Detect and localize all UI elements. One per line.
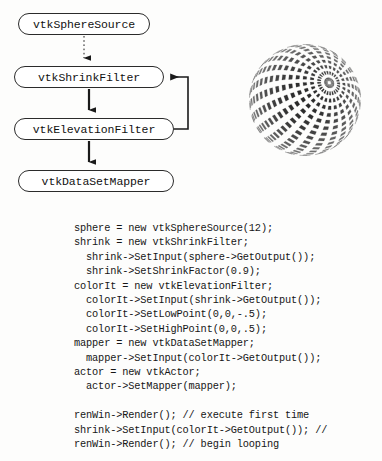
sphere-facet [262, 66, 267, 72]
sphere-facet [354, 106, 357, 112]
sphere-facet [296, 148, 304, 151]
sphere-facet [334, 90, 337, 94]
sphere-facet [315, 153, 323, 155]
sphere-facet [313, 48, 319, 50]
sphere-facet [285, 122, 292, 129]
sphere-facet [282, 85, 286, 91]
sphere-facet [316, 102, 320, 107]
sphere-facet [343, 83, 346, 86]
sphere-facet [306, 103, 311, 108]
sphere-facet [294, 60, 300, 64]
sphere-facet [311, 73, 315, 76]
sphere-facet [342, 115, 346, 120]
sphere-facet [262, 105, 267, 113]
sphere-facet [322, 105, 326, 109]
sphere-facet [352, 102, 355, 108]
edge-feedback-loop [171, 77, 188, 129]
sphere-facet [306, 58, 311, 62]
sphere-facet [268, 118, 274, 125]
sphere-facet [256, 80, 259, 88]
pipeline-node-dataset-mapper[interactable]: vtkDataSetMapper [18, 170, 174, 192]
sphere-facet [306, 153, 314, 154]
sphere-facet [290, 117, 297, 123]
sphere-facet [278, 97, 283, 104]
sphere-facet [291, 134, 299, 139]
code-line: shrink->SetInput(colorIt->GetOutput()); … [74, 423, 382, 437]
sphere-facet [322, 149, 329, 152]
sphere-facet [357, 87, 359, 93]
code-line: renWin->Render(); // begin looping [74, 437, 382, 451]
code-line: shrink = new vtkShrinkFilter; [74, 235, 382, 249]
sphere-facet [355, 94, 357, 100]
sphere-facet [283, 56, 289, 60]
pipeline-node-elevation-filter[interactable]: vtkElevationFilter [14, 118, 174, 140]
sphere-facet [334, 119, 338, 123]
sphere-facet [276, 129, 283, 135]
sphere-facet [336, 97, 339, 101]
sphere-facet [334, 59, 338, 63]
sphere-facet [339, 66, 342, 70]
sphere-facet [315, 143, 322, 145]
sphere-facet [325, 52, 330, 55]
sphere-facet [347, 89, 350, 93]
sphere-facet [303, 82, 307, 85]
sphere-facet [301, 97, 306, 102]
sphere-facet [324, 71, 327, 74]
sphere-facet [297, 90, 302, 95]
code-line: shrink->SetShrinkFactor(0.9); [74, 264, 382, 278]
sphere-facet [328, 60, 331, 63]
sphere-facet [300, 108, 306, 114]
sphere-facet [295, 113, 301, 119]
sphere-facet [304, 88, 308, 92]
sphere-facet [324, 65, 327, 68]
sphere-facet [340, 131, 345, 136]
sphere-facet [342, 121, 346, 126]
sphere-facet [253, 82, 255, 90]
code-line: colorIt->SetInput(shrink->GetOutput()); [74, 293, 382, 307]
sphere-facet [303, 76, 307, 79]
sphere-facet [341, 91, 344, 95]
sphere-facet [277, 111, 283, 118]
sphere-facet [288, 104, 294, 110]
sphere-facet [346, 131, 351, 137]
sphere-facet [295, 130, 302, 136]
sphere-facet [309, 151, 317, 153]
sphere-facet [289, 75, 293, 80]
pipeline-node-shrink-filter[interactable]: vtkShrinkFilter [14, 66, 164, 88]
sphere-facet [311, 98, 316, 103]
sphere-facet [273, 51, 280, 55]
sphere-facet [319, 55, 324, 57]
sphere-facet [284, 65, 289, 70]
sphere-facet [329, 71, 331, 74]
sphere-facet [346, 77, 349, 80]
sphere-facet [283, 108, 289, 115]
sphere-facet [323, 127, 329, 130]
sphere-facet [339, 74, 342, 77]
sphere-facet [250, 87, 251, 95]
sphere-facet [335, 89, 338, 93]
sphere-facet [272, 100, 277, 107]
sphere-facet [339, 103, 342, 108]
sphere-facet [303, 140, 311, 144]
sphere-facet [316, 67, 320, 71]
sphere-facet [306, 45, 313, 46]
sphere-facet [327, 56, 331, 59]
sphere-facet [316, 60, 320, 63]
sphere-facet [267, 102, 272, 110]
sphere-facet [332, 91, 334, 95]
sphere-facet [322, 60, 326, 63]
sphere-facet [339, 136, 345, 141]
sphere-facet [299, 144, 307, 148]
sphere-facet [321, 89, 324, 92]
sphere-facet [296, 75, 300, 79]
sphere-facet [303, 49, 310, 52]
pipeline-node-sphere-source[interactable]: vtkSphereSource [18, 13, 150, 35]
sphere-facet [329, 66, 331, 69]
code-line: sphere = new vtkSphereSource(12); [74, 221, 382, 235]
sphere-facet [275, 75, 279, 81]
sphere-facet [328, 106, 331, 110]
sphere-facet [347, 84, 350, 88]
figure-page: vtkSphereSource vtkShrinkFilter vtkEleva… [0, 0, 382, 461]
sphere-facet [316, 118, 322, 122]
sphere-facet [334, 143, 341, 148]
